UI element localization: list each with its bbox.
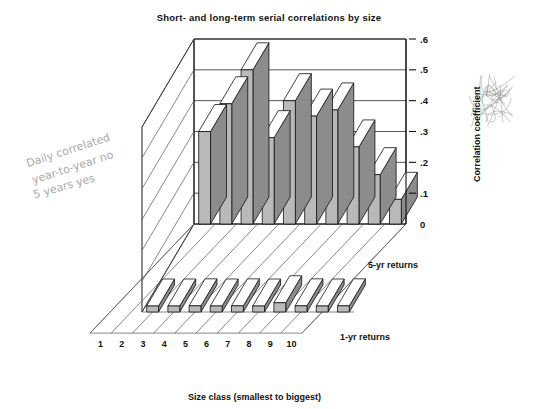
bar-side-face [253, 43, 269, 224]
series-label-5yr-returns: 5-yr returns [368, 260, 418, 270]
x-tick-label-10: 10 [286, 339, 296, 349]
bar-front-face [295, 306, 307, 312]
x-axis-tick-labels: 12345678910 [98, 339, 296, 349]
y-tick-label-.1: .1 [420, 188, 429, 199]
y-tick-label-0: 0 [420, 219, 425, 230]
bar-front-face [337, 306, 349, 312]
y-tick-label-.3: .3 [420, 126, 428, 137]
x-tick-label-3: 3 [140, 339, 145, 349]
y-axis-tick-labels: 0.1.2.3.4.5.6 [420, 34, 429, 230]
bar-front-face [253, 306, 265, 312]
x-tick-label-7: 7 [225, 339, 230, 349]
y-tick-label-.4: .4 [420, 95, 429, 106]
x-tick-label-8: 8 [246, 339, 251, 349]
chart-plot-area: 0.1.2.3.4.5.6 12345678910 5-yr returns1-… [0, 0, 538, 409]
chart-root: Short- and long-term serial correlations… [0, 0, 538, 409]
floor-rail-1 [111, 224, 215, 333]
bar-front-face [274, 303, 286, 312]
bars-1yr-returns [147, 276, 366, 312]
x-tick-label-1: 1 [98, 339, 103, 349]
bar-front-face [210, 306, 222, 312]
x-tick-label-5: 5 [183, 339, 188, 349]
bar-front-face [147, 306, 159, 312]
bar-front-face [316, 306, 328, 312]
x-tick-label-4: 4 [162, 339, 167, 349]
x-tick-label-6: 6 [204, 339, 209, 349]
y-tick-label-.2: .2 [420, 157, 428, 168]
x-tick-label-2: 2 [119, 339, 124, 349]
series-label-1yr-returns: 1-yr returns [340, 332, 390, 342]
y-axis-title: Correlation coefficient [472, 86, 482, 182]
x-axis-title: Size class (smallest to biggest) [188, 392, 321, 402]
bar-front-face [199, 132, 211, 225]
y-tick-label-.5: .5 [420, 64, 429, 75]
bar-front-face [168, 306, 180, 312]
bar-front-face [189, 306, 201, 312]
x-tick-label-9: 9 [268, 339, 273, 349]
floor-rail-4 [175, 224, 279, 333]
y-tick-label-.6: .6 [420, 34, 428, 45]
floor-rail-6 [217, 224, 321, 333]
bar-front-face [231, 306, 243, 312]
